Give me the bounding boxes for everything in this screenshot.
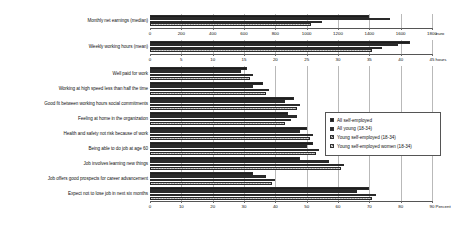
legend-item[interactable]: Young self-employed women (18-34) [330,142,436,151]
bar-percent-8-3 [150,197,372,200]
legend-label: Young self-employed (18-34) [337,135,396,140]
bar-percent-7-3 [150,182,272,185]
bar-percent-3-3 [150,122,285,125]
legend-swatch-icon [330,144,334,148]
category-label: Expect not to lose job in next six month… [68,191,148,196]
axis-tick-label: 60 [336,204,341,209]
bar-percent-5-3 [150,152,316,155]
axis-tick-label: 0 [149,57,151,62]
bar-hours-0-3 [150,49,372,51]
category-label: Good fit between working hours social co… [44,101,148,106]
category-label: Working at high speed less than half the… [59,86,148,91]
gridline [369,14,370,28]
axis-tick-label: 70 [367,204,372,209]
axis-unit-earnings: euro [436,31,445,36]
category-label: Well paid for work [112,71,148,76]
axis-tick-label: 30 [336,57,341,62]
legend-item[interactable]: All young (18-34) [330,125,436,134]
legend-label: All young (18-34) [337,126,372,131]
axis-tick-label: 80 [398,204,403,209]
axis-tick-label: 400 [209,31,216,36]
legend-swatch-icon [330,118,334,122]
legend-item[interactable]: Young self-employed (18-34) [330,133,436,142]
axis-tick-label: 35 [367,57,372,62]
axis-tick-label: 20 [273,57,278,62]
axis-tick-label: 15 [242,57,247,62]
axis-tick-label: 10 [179,204,184,209]
axis-tick-label: 25 [304,57,309,62]
legend-label: Young self-employed women (18-34) [337,144,412,149]
chart-legend: All self-employedAll young (18-34)Young … [325,112,441,156]
axis-line-earnings [150,28,432,29]
category-label: Monthly net earnings (median) [87,18,148,23]
legend-label: All self-employed [337,118,372,123]
axis-tick-label: 50 [304,204,309,209]
axis-tick-label: 0 [149,31,151,36]
axis-tick-label: 800 [272,31,279,36]
legend-swatch-icon [330,135,334,139]
axis-tick-label: 1000 [302,31,312,36]
bar-percent-2-3 [150,107,297,110]
axis-tick-label: 40 [273,204,278,209]
axis-tick-label: 200 [178,31,185,36]
axis-tick-label: 1600 [396,31,406,36]
category-label: Feeling at home in the organization [78,116,148,121]
category-label: Health and safety not risk because of wo… [64,131,148,136]
bar-percent-4-3 [150,137,310,140]
category-label: Job involves learning new things [83,161,148,166]
gridline [432,14,433,28]
axis-tick-label: 600 [240,31,247,36]
legend-swatch-icon [330,127,334,131]
axis-unit-hours: hours [436,57,447,62]
axis-tick-label: 5 [180,57,182,62]
bar-percent-6-3 [150,167,341,170]
axis-line-percent [150,201,432,202]
axis-tick-label: 90 [430,204,435,209]
gridline [432,40,433,54]
axis-line-hours [150,54,432,55]
category-label: Being able to do job at age 60 [88,146,148,151]
bar-percent-0-3 [150,77,250,80]
bar-percent-1-3 [150,92,266,95]
gridline [401,14,402,28]
axis-tick-label: 10 [210,57,215,62]
axis-tick-label: 45 [430,57,435,62]
axis-tick-label: 1400 [364,31,374,36]
category-label: Job offers good prospects for career adv… [48,176,148,181]
axis-tick-label: 30 [242,204,247,209]
category-label: Weekly working hours (mean) [89,44,148,49]
axis-tick-label: 20 [210,204,215,209]
axis-tick-label: 0 [149,204,151,209]
axis-unit-percent: Percent [436,204,451,209]
bar-earnings-0-3 [150,23,311,25]
axis-tick-label: 1200 [333,31,343,36]
legend-item[interactable]: All self-employed [330,116,436,125]
axis-tick-label: 40 [398,57,403,62]
